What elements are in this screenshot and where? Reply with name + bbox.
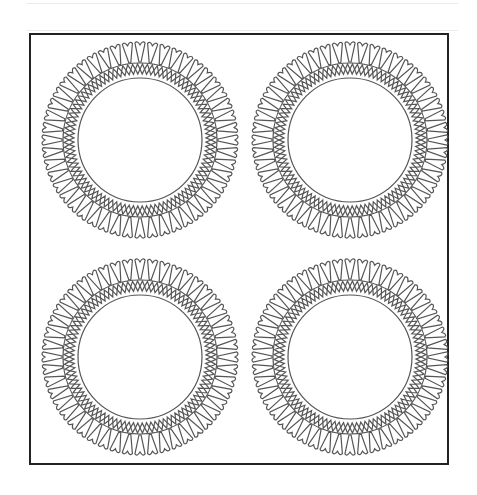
heart-petal-icon bbox=[42, 365, 62, 375]
heart-petal-icon bbox=[44, 110, 65, 121]
heart-petal-icon bbox=[332, 434, 342, 454]
heart-petal-icon bbox=[215, 159, 236, 170]
braid-band bbox=[274, 281, 426, 433]
medallion-top-left bbox=[37, 37, 243, 243]
heart-petal-icon bbox=[369, 215, 380, 236]
heart-petal-icon bbox=[252, 122, 272, 132]
heart-petal-icon bbox=[42, 339, 62, 349]
heart-petal-icon bbox=[254, 376, 275, 387]
heart-petal-icon bbox=[135, 259, 145, 279]
heart-petal-icon bbox=[110, 261, 121, 282]
braid-band bbox=[274, 64, 426, 216]
braid-band bbox=[274, 281, 426, 433]
heart-petal-icon bbox=[217, 339, 237, 349]
heart-petal-icon bbox=[42, 148, 62, 158]
heart-petal-icon bbox=[159, 432, 170, 453]
heart-petal-icon bbox=[217, 148, 237, 158]
heart-petal-icon bbox=[358, 217, 368, 237]
heart-petal-icon bbox=[252, 352, 272, 362]
heart-petal-icon bbox=[159, 44, 170, 65]
braid-band bbox=[64, 64, 216, 216]
heart-petal-icon bbox=[425, 110, 446, 121]
heart-petal-icon bbox=[135, 435, 145, 455]
heart-petal-icon bbox=[135, 218, 145, 238]
heart-petal-icon bbox=[252, 148, 272, 158]
heart-petal-icon bbox=[42, 352, 62, 362]
heart-petal-icon bbox=[254, 110, 275, 121]
medallion-bottom-left bbox=[37, 254, 243, 460]
heart-petal-icon bbox=[425, 159, 446, 170]
inner-ring-circle bbox=[78, 78, 202, 202]
heart-petal-icon bbox=[159, 215, 170, 236]
medallion-top-right bbox=[247, 37, 453, 243]
heart-petal-icon bbox=[358, 42, 368, 62]
inner-ring-circle bbox=[288, 78, 412, 202]
heart-petal-icon bbox=[122, 259, 132, 279]
heart-petal-icon bbox=[44, 376, 65, 387]
heart-petal-icon bbox=[218, 135, 238, 145]
heart-petal-icon bbox=[332, 42, 342, 62]
heart-petal-icon bbox=[217, 365, 237, 375]
heart-petal-icon bbox=[252, 365, 272, 375]
heart-petal-icon bbox=[148, 259, 158, 279]
heart-petal-icon bbox=[215, 327, 236, 338]
heart-petal-icon bbox=[369, 261, 380, 282]
heart-petal-icon bbox=[44, 327, 65, 338]
outer-ring-circle bbox=[273, 280, 427, 434]
heart-petal-icon bbox=[332, 259, 342, 279]
braid-band bbox=[64, 281, 216, 433]
heart-petal-icon bbox=[122, 217, 132, 237]
braid-band bbox=[64, 64, 216, 216]
heart-petal-icon bbox=[159, 261, 170, 282]
heart-petal-icon bbox=[427, 122, 447, 132]
inner-ring-circle bbox=[288, 295, 412, 419]
heart-petal-icon bbox=[345, 42, 355, 62]
heart-petal-icon bbox=[320, 261, 331, 282]
outer-ring-circle bbox=[63, 280, 217, 434]
heart-petal-icon bbox=[332, 217, 342, 237]
second-rule-line bbox=[26, 30, 458, 31]
heart-petal-icon bbox=[254, 159, 275, 170]
medallion-bottom-right bbox=[247, 254, 453, 460]
inner-ring-circle bbox=[78, 295, 202, 419]
heart-petal-icon bbox=[427, 339, 447, 349]
heart-petal-icon bbox=[425, 376, 446, 387]
heart-petal-icon bbox=[42, 135, 62, 145]
braid-band bbox=[64, 281, 216, 433]
outer-ring-circle bbox=[63, 63, 217, 217]
heart-petal-icon bbox=[320, 44, 331, 65]
heart-petal-icon bbox=[122, 42, 132, 62]
heart-petal-icon bbox=[252, 339, 272, 349]
heart-petal-icon bbox=[215, 110, 236, 121]
heart-petal-icon bbox=[44, 159, 65, 170]
heart-petal-icon bbox=[427, 148, 447, 158]
heart-petal-icon bbox=[427, 365, 447, 375]
heart-petal-icon bbox=[148, 434, 158, 454]
heart-petal-icon bbox=[425, 327, 446, 338]
heart-petal-icon bbox=[254, 327, 275, 338]
heart-petal-icon bbox=[110, 432, 121, 453]
heart-petal-icon bbox=[428, 135, 448, 145]
heart-petal-icon bbox=[369, 44, 380, 65]
heart-petal-icon bbox=[345, 218, 355, 238]
heart-petal-icon bbox=[345, 435, 355, 455]
heart-petal-icon bbox=[345, 259, 355, 279]
outer-ring-circle bbox=[273, 63, 427, 217]
heart-petal-icon bbox=[42, 122, 62, 132]
heart-petal-icon bbox=[320, 432, 331, 453]
top-rule-line bbox=[26, 3, 458, 4]
heart-petal-icon bbox=[148, 217, 158, 237]
heart-petal-icon bbox=[358, 259, 368, 279]
braid-band bbox=[274, 64, 426, 216]
heart-petal-icon bbox=[428, 352, 448, 362]
heart-petal-icon bbox=[369, 432, 380, 453]
heart-petal-icon bbox=[215, 376, 236, 387]
heart-petal-icon bbox=[320, 215, 331, 236]
heart-petal-icon bbox=[358, 434, 368, 454]
heart-petal-icon bbox=[217, 122, 237, 132]
heart-petal-icon bbox=[252, 135, 272, 145]
heart-petal-icon bbox=[135, 42, 145, 62]
heart-petal-icon bbox=[148, 42, 158, 62]
heart-petal-icon bbox=[218, 352, 238, 362]
heart-petal-icon bbox=[122, 434, 132, 454]
